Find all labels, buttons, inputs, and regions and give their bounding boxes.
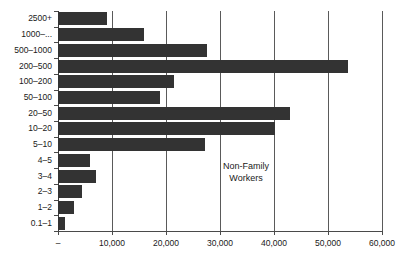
x-axis-tick	[220, 231, 221, 235]
y-axis-tick	[54, 27, 58, 28]
plot-area	[58, 11, 382, 231]
y-axis-category-labels: 2500+1000–...500–1000200–500100–20050–10…	[0, 11, 52, 231]
bar-fill	[58, 12, 107, 25]
y-axis-label: 200–500	[0, 62, 52, 71]
y-axis-label: 2500+	[0, 14, 52, 23]
y-axis-tick	[54, 58, 58, 59]
bar	[58, 44, 207, 57]
y-axis-label: 20–50	[0, 109, 52, 118]
x-axis-label: 50,000	[315, 238, 341, 248]
y-axis-tick	[54, 137, 58, 138]
bar-fill	[58, 91, 160, 104]
x-axis-label: 20,000	[153, 238, 179, 248]
y-axis-tick	[54, 105, 58, 106]
bar-fill	[58, 201, 74, 214]
y-axis-label: 100–200	[0, 77, 52, 86]
bar-fill	[58, 28, 144, 41]
bar	[58, 107, 290, 120]
y-axis-label: 1000–...	[0, 30, 52, 39]
x-axis-label: 10,000	[99, 238, 125, 248]
x-axis-tick	[274, 231, 275, 235]
bar	[58, 28, 144, 41]
y-axis-label: 4–5	[0, 156, 52, 165]
y-axis-label: 500–1000	[0, 46, 52, 55]
bar-series	[58, 11, 382, 231]
annotation-line-2: Workers	[200, 172, 292, 184]
y-axis-label: 5–10	[0, 140, 52, 149]
bar	[58, 217, 65, 230]
bar-fill	[58, 217, 65, 230]
y-axis-tick	[54, 200, 58, 201]
y-axis-tick	[54, 74, 58, 75]
x-axis-label: 40,000	[261, 238, 287, 248]
bar-fill	[58, 122, 275, 135]
x-axis-label: –	[56, 238, 61, 248]
bar-fill	[58, 138, 205, 151]
bar	[58, 170, 96, 183]
bar	[58, 154, 90, 167]
x-axis-tick	[112, 231, 113, 235]
y-axis-tick	[54, 90, 58, 91]
bar	[58, 138, 205, 151]
y-axis-tick	[54, 42, 58, 43]
bar-fill	[58, 154, 90, 167]
bar-fill	[58, 170, 96, 183]
y-axis-tick	[54, 121, 58, 122]
x-axis-tick	[382, 231, 383, 235]
y-axis-label: 0.1–1	[0, 219, 52, 228]
bar-fill	[58, 75, 174, 88]
bar	[58, 75, 174, 88]
chart-annotation: Non-Family Workers	[200, 160, 292, 184]
x-axis-tick	[328, 231, 329, 235]
annotation-line-1: Non-Family	[200, 160, 292, 172]
bar-fill	[58, 44, 207, 57]
y-axis-label: 3–4	[0, 172, 52, 181]
y-axis-tick	[54, 184, 58, 185]
y-axis-tick	[54, 215, 58, 216]
bar-chart: 2500+1000–...500–1000200–500100–20050–10…	[0, 0, 403, 258]
bar	[58, 12, 107, 25]
y-axis-label: 2–3	[0, 187, 52, 196]
y-axis-label: 10–20	[0, 124, 52, 133]
bar-fill	[58, 60, 348, 73]
gridline-60000	[382, 11, 383, 231]
bar	[58, 60, 348, 73]
x-axis-tick	[58, 231, 59, 235]
bar	[58, 201, 74, 214]
x-axis-label: 30,000	[207, 238, 233, 248]
y-axis-label: 1–2	[0, 203, 52, 212]
y-axis-tick	[54, 11, 58, 12]
bar	[58, 122, 275, 135]
bar	[58, 91, 160, 104]
bar-fill	[58, 185, 82, 198]
y-axis-tick	[54, 152, 58, 153]
x-axis-label: 60,000	[369, 238, 395, 248]
y-axis-label: 50–100	[0, 93, 52, 102]
bar	[58, 185, 82, 198]
x-axis-tick	[166, 231, 167, 235]
y-axis-tick	[54, 168, 58, 169]
bar-fill	[58, 107, 290, 120]
